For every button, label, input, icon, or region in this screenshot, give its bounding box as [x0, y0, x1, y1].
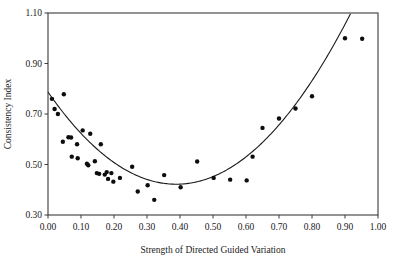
data-point [80, 128, 84, 132]
fit-curve [48, 14, 351, 185]
y-tick-label: 1.10 [25, 8, 42, 18]
scatter-plot-figure: 0.000.100.200.300.400.500.600.700.800.90… [0, 0, 402, 263]
data-point [195, 159, 199, 163]
data-point [162, 173, 166, 177]
data-point [136, 189, 140, 193]
x-tick-label: 0.80 [304, 222, 321, 232]
data-point [97, 172, 101, 176]
x-tick-label: 0.60 [238, 222, 255, 232]
data-point [244, 178, 248, 182]
data-point [70, 154, 74, 158]
data-point [88, 131, 92, 135]
data-point [69, 135, 73, 139]
data-point [343, 36, 347, 40]
data-point [228, 177, 232, 181]
data-point [360, 37, 364, 41]
data-point [130, 165, 134, 169]
data-point [52, 107, 56, 111]
x-tick-label: 0.20 [106, 222, 123, 232]
data-point [76, 156, 80, 160]
chart-canvas: 0.000.100.200.300.400.500.600.700.800.90… [0, 0, 402, 263]
data-point [250, 154, 254, 158]
x-tick-label: 0.40 [172, 222, 189, 232]
y-axis-title: Consistency Index [3, 79, 13, 150]
data-point [56, 112, 60, 116]
data-point [293, 106, 297, 110]
x-tick-label: 0.10 [73, 222, 90, 232]
x-tick-label: 0.50 [205, 222, 222, 232]
data-point [61, 140, 65, 144]
data-point [277, 116, 281, 120]
data-point [118, 176, 122, 180]
data-point [50, 97, 54, 101]
data-point [152, 198, 156, 202]
y-tick-label: 0.90 [25, 59, 42, 69]
x-tick-label: 1.00 [370, 222, 387, 232]
x-axis-title: Strength of Directed Guided Variation [141, 245, 286, 255]
data-point [86, 163, 90, 167]
data-point [109, 171, 113, 175]
data-point [145, 183, 149, 187]
data-point [260, 126, 264, 130]
x-tick-label: 0.90 [337, 222, 354, 232]
x-tick-label: 0.70 [271, 222, 288, 232]
data-point [111, 179, 115, 183]
data-point [62, 92, 66, 96]
data-point [106, 177, 110, 181]
y-tick-label: 0.30 [25, 210, 42, 220]
x-tick-label: 0.30 [139, 222, 156, 232]
x-tick-label: 0.00 [40, 222, 57, 232]
data-point [93, 159, 97, 163]
data-point [310, 94, 314, 98]
data-point [178, 185, 182, 189]
data-point [105, 170, 109, 174]
data-point [99, 142, 103, 146]
y-tick-label: 0.70 [25, 109, 42, 119]
data-point [75, 142, 79, 146]
data-point [211, 176, 215, 180]
y-tick-label: 0.50 [25, 160, 42, 170]
plot-frame [48, 13, 378, 215]
